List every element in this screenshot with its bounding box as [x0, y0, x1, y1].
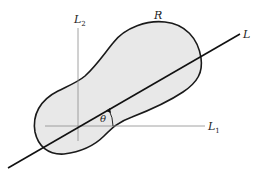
diagram-canvas	[0, 0, 259, 176]
axis1-label-sub: 1	[215, 127, 219, 135]
region-r	[34, 22, 201, 154]
axis2-label-sub: 2	[81, 20, 85, 28]
line-label: L	[243, 29, 250, 40]
angle-label: θ	[100, 114, 106, 124]
axis1-label: L1	[208, 121, 220, 135]
axis2-label: L2	[74, 14, 86, 28]
region-label: R	[154, 10, 162, 21]
